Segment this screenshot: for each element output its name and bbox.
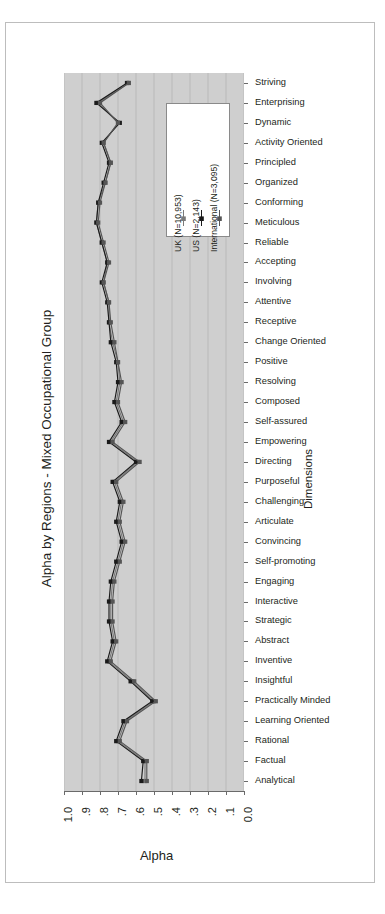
data-point: [118, 739, 122, 743]
data-point: [102, 280, 106, 284]
y-tick-mark: [244, 721, 248, 722]
data-point: [107, 619, 111, 623]
data-point: [111, 480, 115, 484]
data-point: [123, 420, 127, 424]
data-point: [116, 121, 120, 125]
y-axis-label: Convincing: [255, 537, 301, 546]
y-tick-mark: [244, 462, 248, 463]
chart-legend[interactable]: UK (N=10,953)US (N=2,143)International (…: [166, 103, 230, 237]
x-axis-title: Alpha: [64, 848, 249, 863]
legend-label: International (N=3,095): [209, 156, 219, 252]
y-tick-mark: [244, 442, 248, 443]
y-axis-label: Analytical: [255, 776, 295, 785]
y-tick-mark: [244, 143, 248, 144]
data-point: [123, 540, 127, 544]
y-axis-label: Learning Oriented: [255, 716, 329, 725]
y-tick-mark: [244, 223, 248, 224]
y-axis-label: Insightful: [255, 676, 292, 685]
y-axis-label: Activity Oriented: [255, 138, 323, 147]
y-axis-label: Enterprising: [255, 98, 305, 107]
series-2: [94, 81, 154, 783]
y-axis-label: Practically Minded: [255, 696, 330, 705]
data-point: [121, 500, 125, 504]
data-point: [116, 360, 120, 364]
data-point: [116, 400, 120, 404]
data-point: [107, 440, 111, 444]
y-tick-mark: [244, 582, 248, 583]
y-tick-mark: [244, 342, 248, 343]
data-point: [107, 300, 111, 304]
data-point: [112, 400, 116, 404]
y-axis-label: Resolving: [255, 377, 296, 386]
y-tick-mark: [244, 103, 248, 104]
data-point: [118, 520, 122, 524]
x-tick-label: 1.0: [62, 807, 74, 837]
page-title: Alpha by Regions - Mixed Occupational Gr…: [39, 259, 54, 639]
y-axis-label: Self-assured: [255, 417, 307, 426]
data-point: [127, 81, 131, 85]
y-tick-mark: [244, 83, 248, 84]
data-point: [121, 719, 125, 723]
y-axis-label: Dynamic: [255, 118, 291, 127]
y-tick-mark: [244, 761, 248, 762]
y-tick-mark: [244, 602, 248, 603]
data-point: [109, 320, 113, 324]
y-tick-mark: [244, 382, 248, 383]
data-point: [120, 380, 124, 384]
data-point: [109, 659, 113, 663]
data-point: [120, 540, 124, 544]
y-axis-label: Inventive: [255, 656, 292, 665]
y-axis-label: Empowering: [255, 437, 307, 446]
y-axis-label: Self-promoting: [255, 557, 315, 566]
y-tick-mark: [244, 781, 248, 782]
x-tick-label: .8: [98, 807, 110, 837]
y-tick-mark: [244, 562, 248, 563]
y-axis-label: Conforming: [255, 198, 303, 207]
y-axis-label: Striving: [255, 78, 286, 87]
y-tick-mark: [244, 681, 248, 682]
y-tick-mark: [244, 322, 248, 323]
page-sheet: Alpha by Regions - Mixed Occupational Gr…: [5, 22, 375, 883]
data-point: [105, 659, 109, 663]
y-axis-label: Engaging: [255, 577, 294, 586]
data-point: [114, 560, 118, 564]
y-axis-label: Composed: [255, 397, 300, 406]
y-tick-mark: [244, 163, 248, 164]
x-tick-label: 0.0: [242, 807, 254, 837]
series-1: [94, 81, 156, 783]
y-axis-label: Accepting: [255, 257, 296, 266]
data-point: [111, 639, 115, 643]
x-tick-label: .3: [188, 807, 200, 837]
data-point: [98, 101, 102, 105]
y-axis-label: Reliable: [255, 238, 289, 247]
y-tick-mark: [244, 502, 248, 503]
data-point: [112, 579, 116, 583]
data-point: [111, 599, 115, 603]
x-tick-label: .5: [152, 807, 164, 837]
y-tick-mark: [244, 123, 248, 124]
y-axis-label: Attentive: [255, 297, 291, 306]
y-tick-mark: [244, 661, 248, 662]
data-point: [118, 560, 122, 564]
data-point: [145, 759, 149, 763]
legend-label: US (N=2,143): [191, 156, 201, 252]
data-point: [154, 699, 158, 703]
y-axis-label: Change Oriented: [255, 337, 326, 346]
data-point: [107, 599, 111, 603]
y-tick-mark: [244, 522, 248, 523]
data-point: [125, 719, 129, 723]
x-tick-mark: [244, 791, 245, 795]
data-point: [116, 380, 120, 384]
data-point: [114, 739, 118, 743]
y-axis-label: Involving: [255, 277, 292, 286]
chart-figure: Alpha by Regions - Mixed Occupational Gr…: [6, 23, 374, 882]
y-tick-mark: [244, 641, 248, 642]
data-point: [114, 480, 118, 484]
data-point: [98, 201, 102, 205]
data-point: [103, 181, 107, 185]
x-tick-label: .2: [206, 807, 218, 837]
data-point: [96, 220, 100, 224]
y-tick-mark: [244, 422, 248, 423]
y-tick-mark: [244, 302, 248, 303]
data-point: [109, 579, 113, 583]
